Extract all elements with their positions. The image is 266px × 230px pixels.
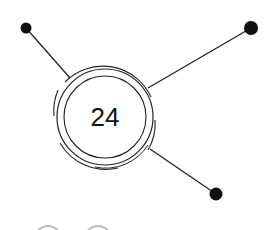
connector-top-right xyxy=(148,28,251,88)
node-top-right xyxy=(244,21,258,35)
node-top-left xyxy=(21,23,32,34)
faint-shape-left xyxy=(38,226,58,230)
faint-shape-right xyxy=(88,226,108,230)
hub-diagram: 24 xyxy=(0,0,266,230)
connector-bottom-right xyxy=(150,149,216,194)
center-label: 24 xyxy=(91,102,120,132)
connector-top-left xyxy=(26,28,70,78)
node-bottom-right xyxy=(210,188,223,201)
